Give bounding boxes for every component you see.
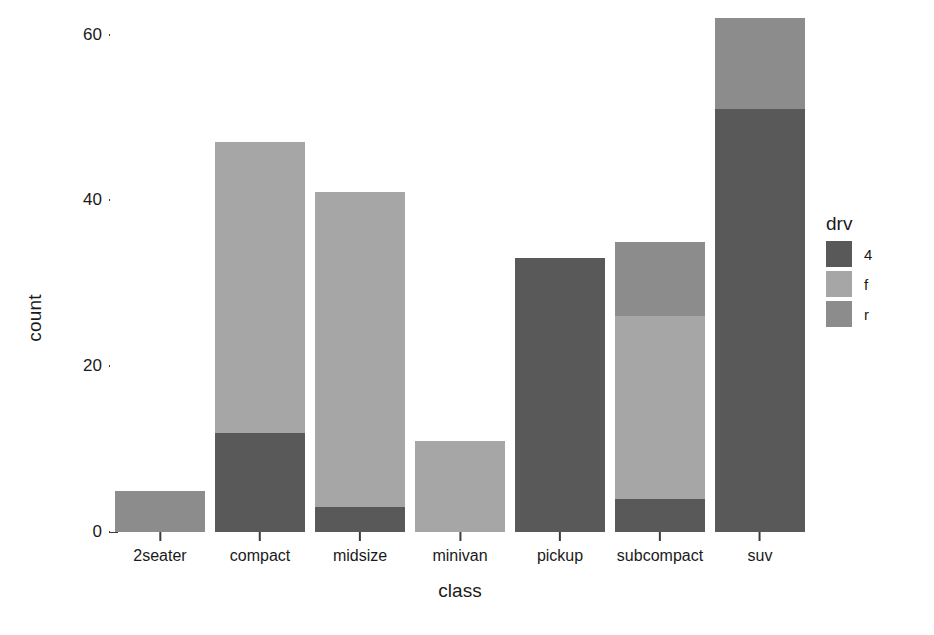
x-tick-pickup: pickup [537, 532, 583, 565]
legend-item-4[interactable]: 4 [826, 241, 926, 267]
bar-compact [215, 142, 305, 532]
bar-segment-2seater-r [115, 491, 205, 532]
bar-segment-subcompact-f [615, 316, 705, 498]
x-tick-minivan: minivan [432, 532, 487, 565]
x-tick-label: midsize [333, 547, 387, 565]
legend-items: 4fr [826, 241, 926, 327]
legend-label-f: f [864, 276, 868, 293]
bar-suv [715, 18, 805, 532]
y-tick-label: 0 [93, 522, 102, 542]
x-tick-label: 2seater [133, 547, 186, 565]
plot-panel [110, 18, 810, 532]
x-tick-mark [359, 532, 361, 541]
x-axis-ticks: 2seatercompactmidsizeminivanpickupsubcom… [110, 532, 810, 578]
legend-swatch-r [826, 301, 852, 327]
x-tick-mark [559, 532, 561, 541]
legend-swatch-f [826, 271, 852, 297]
x-tick-label: compact [230, 547, 290, 565]
x-tick-compact: compact [230, 532, 290, 565]
legend: drv 4fr [826, 214, 926, 331]
x-tick-2seater: 2seater [133, 532, 186, 565]
legend-swatch-4 [826, 241, 852, 267]
bar-segment-suv-4 [715, 109, 805, 532]
legend-item-r[interactable]: r [826, 301, 926, 327]
bar-segment-minivan-f [415, 441, 505, 532]
bar-chart: count 0204060 2seatercompactmidsizeminiv… [0, 0, 934, 635]
x-tick-label: pickup [537, 547, 583, 565]
bar-midsize [315, 192, 405, 532]
legend-label-4: 4 [864, 246, 872, 263]
bar-minivan [415, 441, 505, 532]
bar-segment-subcompact-4 [615, 499, 705, 532]
x-tick-subcompact: subcompact [617, 532, 703, 565]
x-tick-mark [659, 532, 661, 541]
bar-segment-compact-f [215, 142, 305, 432]
legend-item-f[interactable]: f [826, 271, 926, 297]
x-tick-mark [459, 532, 461, 541]
bar-subcompact [615, 242, 705, 532]
y-axis-ticks: 0204060 [0, 0, 118, 635]
y-tick-label: 20 [83, 356, 102, 376]
bar-segment-midsize-4 [315, 507, 405, 532]
x-tick-mark [259, 532, 261, 541]
x-tick-suv: suv [748, 532, 773, 565]
legend-label-r: r [864, 306, 869, 323]
x-tick-mark [159, 532, 161, 541]
bar-segment-pickup-4 [515, 258, 605, 532]
x-tick-midsize: midsize [333, 532, 387, 565]
x-tick-label: minivan [432, 547, 487, 565]
bar-segment-compact-4 [215, 433, 305, 532]
bar-pickup [515, 258, 605, 532]
x-tick-label: suv [748, 547, 773, 565]
x-axis-label: class [110, 580, 810, 602]
y-tick-label: 60 [83, 25, 102, 45]
bar-segment-suv-r [715, 18, 805, 109]
y-tick-label: 40 [83, 190, 102, 210]
x-tick-label: subcompact [617, 547, 703, 565]
bar-2seater [115, 491, 205, 532]
x-tick-mark [759, 532, 761, 541]
bar-segment-subcompact-r [615, 242, 705, 317]
legend-title: drv [826, 214, 926, 233]
bar-segment-midsize-f [315, 192, 405, 507]
